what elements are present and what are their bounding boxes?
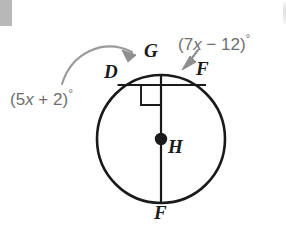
point-label-g: G <box>144 41 158 60</box>
curved-arrow-head-icon <box>122 50 136 62</box>
expr-right-suffix: − 12) <box>202 35 246 54</box>
center-point-dot <box>155 133 167 145</box>
curved-arrow-icon <box>62 47 132 84</box>
expr-left-prefix: (5 <box>10 90 25 109</box>
annotation-arc-measure-right: (7x − 12)° <box>178 33 250 53</box>
right-angle-icon <box>141 85 161 105</box>
diagram-canvas: G D F F H (5x + 2)° (7x − 12)° <box>0 0 286 228</box>
point-label-f-bottom: F <box>154 203 167 222</box>
point-label-f-right: F <box>196 59 209 78</box>
expr-right-variable: x <box>193 35 202 54</box>
expr-left-degree: ° <box>68 87 73 101</box>
expr-right-prefix: (7 <box>178 35 193 54</box>
straight-arrow-head-icon <box>182 56 196 70</box>
expr-left-variable: x <box>25 90 34 109</box>
point-label-d: D <box>104 62 118 81</box>
expr-right-degree: ° <box>246 32 251 46</box>
expr-left-suffix: + 2) <box>34 90 69 109</box>
annotation-arc-measure-left: (5x + 2)° <box>10 88 73 108</box>
point-label-h-center: H <box>168 137 183 156</box>
